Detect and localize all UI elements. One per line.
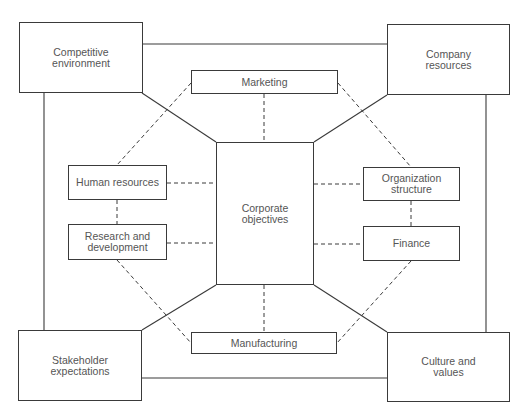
node-culture-and-values: Culture and values bbox=[387, 332, 510, 402]
node-manufacturing: Manufacturing bbox=[191, 332, 337, 354]
line-culture-to-center bbox=[314, 285, 387, 332]
node-company-resources: Company resources bbox=[387, 24, 510, 95]
diagram-canvas: Competitive environment Company resource… bbox=[0, 0, 529, 420]
dash-marketing-to-org bbox=[338, 83, 411, 167]
dash-finance-to-manufacturing bbox=[337, 261, 411, 343]
node-stakeholder-expectations: Stakeholder expectations bbox=[18, 330, 142, 401]
node-marketing: Marketing bbox=[191, 70, 338, 94]
line-competitive-to-center bbox=[142, 93, 216, 142]
dash-marketing-to-hr bbox=[117, 83, 191, 165]
node-corporate-objectives: Corporate objectives bbox=[216, 142, 314, 285]
node-organization-structure: Organization structure bbox=[363, 167, 460, 201]
node-research-and-development: Research and development bbox=[68, 224, 167, 260]
node-finance: Finance bbox=[363, 226, 460, 261]
line-company-to-center bbox=[314, 95, 387, 142]
line-stakeholder-to-center bbox=[142, 285, 216, 330]
node-human-resources: Human resources bbox=[68, 165, 167, 200]
node-competitive-environment: Competitive environment bbox=[19, 22, 143, 93]
